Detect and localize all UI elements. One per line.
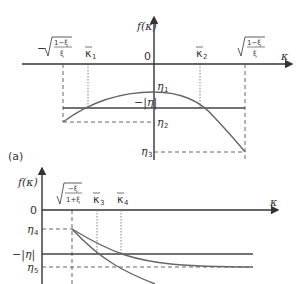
top-kappa2-label: κ 2 (196, 47, 207, 61)
bottom-upper-curve (72, 229, 253, 267)
svg-text:η: η (27, 223, 34, 236)
top-right-bound-label: 1−ξ ξ (238, 37, 265, 58)
bottom-eta5-label: η 5 (27, 261, 38, 275)
bottom-panel: f(κ) κ 0 −ξ 1+ξ κ 3 κ 4 (12, 168, 278, 284)
svg-text:κ: κ (117, 193, 124, 206)
bottom-eta4-label: η 4 (27, 223, 39, 237)
top-eta1-label: η 1 (157, 80, 168, 94)
panel-label: (a) (8, 150, 23, 163)
svg-text:1−ξ: 1−ξ (54, 39, 68, 47)
svg-text:1−ξ: 1−ξ (247, 39, 261, 47)
top-x-axis-label: κ (280, 50, 289, 63)
bottom-kappa4-label: κ 4 (117, 193, 129, 207)
top-origin-label: 0 (144, 50, 151, 63)
bottom-y-axis-label: f(κ) (17, 176, 38, 189)
diagram-canvas: f(κ) κ 0 − 1−ξ ξ κ 1 κ 2 1−ξ ξ (0, 0, 305, 284)
svg-text:5: 5 (34, 267, 38, 275)
svg-text:η: η (27, 261, 34, 274)
svg-text:κ: κ (196, 47, 203, 60)
bottom-neg-abs-eta-label: −|η| (12, 248, 35, 262)
bottom-x-axis-label: κ (269, 196, 278, 209)
svg-text:2: 2 (164, 122, 168, 130)
top-left-bound-label: − 1−ξ ξ (37, 37, 72, 58)
top-y-axis-label: f(κ) (136, 20, 157, 33)
svg-text:κ: κ (93, 193, 100, 206)
top-kappa1-label: κ 1 (85, 47, 96, 61)
svg-text:ξ: ξ (60, 50, 64, 58)
bottom-origin-label: 0 (30, 204, 37, 217)
svg-text:−ξ: −ξ (68, 185, 78, 193)
svg-text:1+ξ: 1+ξ (66, 196, 80, 204)
svg-text:3: 3 (100, 199, 104, 207)
svg-text:κ: κ (85, 47, 92, 60)
svg-text:1: 1 (92, 53, 96, 61)
svg-text:1: 1 (164, 86, 168, 94)
svg-text:ξ: ξ (253, 50, 257, 58)
top-panel: f(κ) κ 0 − 1−ξ ξ κ 1 κ 2 1−ξ ξ (22, 17, 292, 160)
top-neg-abs-eta-label: −|η| (134, 96, 157, 110)
svg-text:η: η (157, 116, 164, 129)
svg-text:2: 2 (203, 53, 207, 61)
svg-text:η: η (141, 145, 148, 158)
bottom-kappa3-label: κ 3 (93, 193, 104, 207)
bottom-bound-label: −ξ 1+ξ (57, 183, 82, 204)
svg-text:η: η (157, 80, 164, 93)
svg-text:3: 3 (148, 151, 152, 159)
top-eta3-label: η 3 (141, 145, 152, 159)
bottom-lower-curve (72, 229, 155, 284)
svg-text:4: 4 (124, 199, 129, 207)
top-eta2-label: η 2 (157, 116, 168, 130)
svg-text:4: 4 (34, 229, 39, 237)
